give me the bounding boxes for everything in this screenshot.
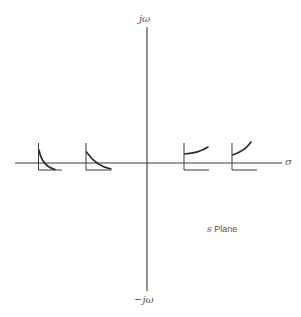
impulse-response-near-left — [86, 143, 111, 170]
s-variable: s — [207, 224, 212, 234]
s-plane-label: s Plane — [207, 225, 237, 234]
imaginary-axis-top-label: jω — [139, 14, 150, 24]
impulse-response-far-right — [232, 142, 257, 170]
imaginary-axis-bottom-label: −jω — [134, 295, 154, 305]
impulse-response-near-right — [184, 143, 209, 170]
real-axis-label: σ — [285, 157, 292, 167]
s-plane-diagram — [0, 0, 301, 317]
impulse-response-far-left — [39, 143, 63, 170]
plane-text: Plane — [214, 224, 237, 234]
